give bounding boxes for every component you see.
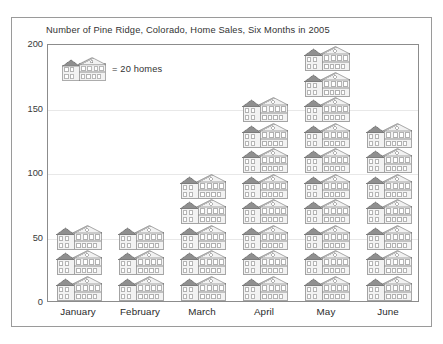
house-icon: [366, 148, 412, 174]
x-tick-label: March: [188, 306, 216, 317]
pictogram-column: [56, 225, 102, 302]
house-icon: [366, 199, 412, 225]
house-icon: [242, 97, 288, 123]
house-icon: [304, 123, 350, 149]
house-icon: [304, 199, 350, 225]
house-icon: [304, 174, 350, 200]
house-icon: [304, 97, 350, 123]
pictogram-column: [366, 123, 412, 302]
house-icon: [304, 72, 350, 98]
house-icon: [180, 174, 226, 200]
legend-label: = 20 homes: [112, 64, 162, 74]
y-tick-label: 150: [27, 104, 43, 114]
pictograph-chart: Number of Pine Ridge, Colorado, Home Sal…: [0, 0, 443, 344]
house-icon: [242, 276, 288, 302]
house-icon: [180, 199, 226, 225]
pictogram-column: [242, 97, 288, 301]
x-tick-label: June: [377, 306, 399, 317]
x-tick-label: April: [254, 306, 274, 317]
house-icon: [304, 148, 350, 174]
house-icon: [304, 46, 350, 72]
x-tick-label: January: [60, 306, 96, 317]
y-axis: 050100150200: [13, 44, 43, 302]
pictogram-column: [118, 225, 164, 302]
house-icon: [180, 276, 226, 302]
y-tick-label: 100: [27, 168, 43, 178]
house-icon: [118, 225, 164, 251]
x-tick-label: May: [317, 306, 336, 317]
house-icon: [56, 276, 102, 302]
house-icon: [242, 148, 288, 174]
house-icon: [304, 225, 350, 251]
y-tick-label: 50: [33, 233, 43, 243]
house-icon: [242, 250, 288, 276]
house-icon: [366, 225, 412, 251]
house-icon: [366, 276, 412, 302]
house-icon: [366, 250, 412, 276]
pictogram-column: [180, 174, 226, 302]
chart-title: Number of Pine Ridge, Colorado, Home Sal…: [46, 25, 330, 35]
house-icon: [366, 123, 412, 149]
house-icon: [56, 225, 102, 251]
house-icon: [242, 225, 288, 251]
x-axis: JanuaryFebruaryMarchAprilMayJune: [0, 306, 443, 326]
house-icon: [180, 250, 226, 276]
y-tick-label: 200: [27, 39, 43, 49]
gridline: [48, 110, 418, 111]
house-icon: [180, 225, 226, 251]
x-tick-label: February: [120, 306, 160, 317]
house-icon: [118, 276, 164, 302]
plot-area: [47, 44, 419, 302]
house-icon: [242, 174, 288, 200]
house-icon: [304, 276, 350, 302]
pictogram-column: [304, 46, 350, 301]
house-icon: [56, 250, 102, 276]
house-icon: [366, 174, 412, 200]
gridline: [48, 239, 418, 240]
house-icon: [118, 250, 164, 276]
house-icon: [304, 250, 350, 276]
gridline: [48, 174, 418, 175]
house-icon: [242, 123, 288, 149]
house-icon: [242, 199, 288, 225]
house-icon: [62, 57, 106, 82]
legend: = 20 homes: [62, 57, 162, 82]
